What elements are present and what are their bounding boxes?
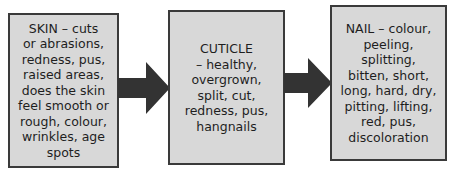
cuticle-box: CUTICLE – healthy, overgrown, split, cut… [168,10,285,165]
cuticle-box-text: CUTICLE – healthy, overgrown, split, cut… [185,41,268,134]
nail-box-text: NAIL – colour, peeling, splitting, bitte… [341,21,437,145]
arrow-right-icon [284,58,332,108]
nail-box: NAIL – colour, peeling, splitting, bitte… [330,5,447,161]
skin-box: SKIN – cuts or abrasions, redness, pus, … [8,13,119,168]
arrow-right-icon [118,62,170,114]
skin-box-text: SKIN – cuts or abrasions, redness, pus, … [18,21,109,161]
